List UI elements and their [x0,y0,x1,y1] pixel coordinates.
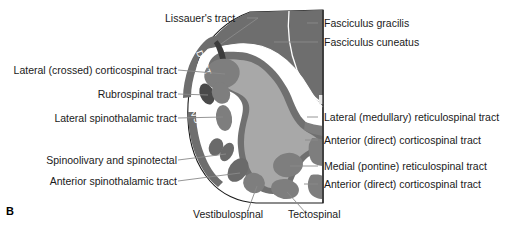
label-lateral-spinothalamic-tract: Lateral spinothalamic tract [54,113,177,124]
label-spinoolivary-and-spinotectal: Spinoolivary and spinotectal [46,155,177,166]
label-medial-pontine-reticulospinal-tract: Medial (pontine) reticulospinal tract [324,161,487,172]
label-lateral-medullary-reticulospinal-tract: Lateral (medullary) reticulospinal tract [324,112,499,123]
label-fasciculus-cuneatus: Fasciculus cuneatus [324,37,419,48]
label-fasciculus-gracilis: Fasciculus gracilis [324,18,409,29]
label-lissauers-tract: Lissauer's tract [165,13,235,24]
label-anterior-direct-corticospinal-tract-upper: Anterior (direct) corticospinal tract [324,135,481,146]
label-vestibulospinal: Vestibulospinal [193,209,263,220]
label-tectospinal: Tectospinal [288,209,341,220]
panel-letter: B [6,205,14,217]
label-rubrospinal-tract: Rubrospinal tract [98,89,177,100]
label-lateral-crossed-corticospinal-tract: Lateral (crossed) corticospinal tract [14,65,177,76]
spinal-cord-cross-section-figure: DSCT VSCT Lissauer's tract Lateral (cr [0,0,511,234]
label-anterior-spinothalamic-tract: Anterior spinothalamic tract [50,176,177,187]
label-anterior-direct-corticospinal-tract-lower: Anterior (direct) corticospinal tract [324,179,481,190]
